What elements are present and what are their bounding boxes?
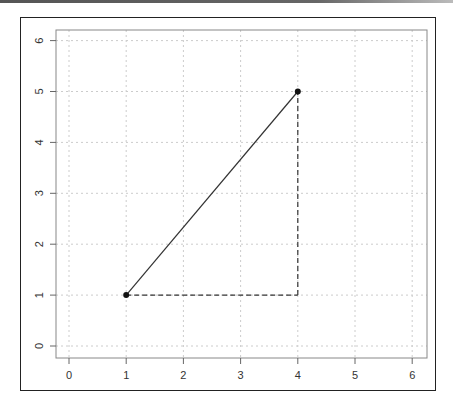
data-point xyxy=(123,292,129,298)
x-tick-label: 3 xyxy=(238,369,244,381)
grid xyxy=(56,30,427,358)
y-axis: 0123456 xyxy=(33,38,56,350)
x-tick-label: 2 xyxy=(180,369,186,381)
y-tick-label: 4 xyxy=(33,139,45,145)
x-tick-label: 1 xyxy=(123,369,129,381)
y-tick-label: 0 xyxy=(33,343,45,349)
x-tick-label: 0 xyxy=(66,369,72,381)
y-tick-label: 3 xyxy=(33,190,45,196)
x-tick-label: 4 xyxy=(295,369,301,381)
x-tick-label: 5 xyxy=(352,369,358,381)
y-tick-label: 2 xyxy=(33,241,45,247)
y-tick-label: 6 xyxy=(33,38,45,44)
chart: 0123456 0123456 xyxy=(0,0,453,410)
x-axis: 0123456 xyxy=(66,358,415,381)
data-point xyxy=(295,89,301,95)
plot-box xyxy=(56,30,427,358)
y-tick-label: 1 xyxy=(33,292,45,298)
x-tick-label: 6 xyxy=(409,369,415,381)
y-tick-label: 5 xyxy=(33,88,45,94)
